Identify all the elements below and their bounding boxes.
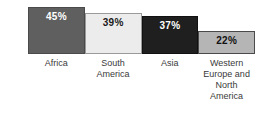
chart-area: 45%39%37%22% AfricaSouth AmericaAsiaWest… — [28, 0, 255, 102]
category-label-asia: Asia — [142, 58, 199, 102]
bars-row: 45%39%37%22% — [28, 0, 255, 54]
bar-column-africa: 45% — [28, 0, 85, 54]
category-label-africa: Africa — [28, 58, 85, 102]
category-label-south-america: South America — [85, 58, 142, 102]
bar-column-western-europe-and-north-america: 22% — [198, 0, 255, 54]
bar-column-asia: 37% — [142, 0, 199, 54]
category-label-western-europe-and-north-america: Western Europe and North America — [198, 58, 255, 102]
bar-column-south-america: 39% — [85, 0, 142, 54]
value-label-western-europe-and-north-america: 22% — [199, 32, 254, 46]
value-label-africa: 45% — [29, 8, 84, 22]
bar-western-europe-and-north-america: 22% — [198, 31, 255, 54]
bar-africa: 45% — [28, 7, 85, 54]
bar-south-america: 39% — [85, 13, 142, 54]
bar-chart: 45%39%37%22% AfricaSouth AmericaAsiaWest… — [0, 0, 275, 127]
value-label-south-america: 39% — [86, 14, 141, 28]
value-label-asia: 37% — [143, 17, 198, 31]
bar-asia: 37% — [142, 16, 199, 54]
category-labels-row: AfricaSouth AmericaAsiaWestern Europe an… — [28, 58, 255, 102]
